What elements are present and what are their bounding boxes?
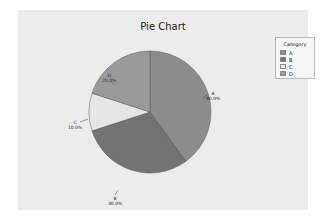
pie-plot (18, 10, 308, 210)
legend-item-c: C (280, 63, 314, 70)
legend-item-d: D (280, 70, 314, 77)
slice-label-b: B 30.0% (108, 196, 122, 206)
legend-swatch-d (280, 71, 286, 76)
slice-label-a: A 40.0% (206, 91, 220, 101)
chart-panel: Pie Chart A 40.0% B 30.0% C 10.0% D 20.0… (18, 10, 308, 210)
slice-label-c: C 10.0% (68, 120, 82, 130)
slice-label-d: D 20.0% (102, 73, 116, 83)
legend-item-b: B (280, 56, 314, 63)
legend-title: Category (276, 41, 314, 47)
legend-item-a: A (280, 49, 314, 56)
legend: Category A B C D (275, 37, 315, 79)
legend-swatch-c (280, 64, 286, 69)
legend-swatch-b (280, 57, 286, 62)
legend-swatch-a (280, 50, 286, 55)
pie-slices (89, 51, 211, 173)
